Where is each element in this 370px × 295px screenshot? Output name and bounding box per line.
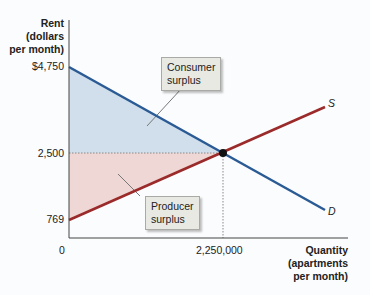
supply-label: S <box>328 97 335 110</box>
producer-surplus-callout: Producer surplus <box>145 196 200 230</box>
x-tick-0: 0 <box>59 244 65 257</box>
x-axis-title: Quantity (apartments per month) <box>268 244 348 283</box>
y-tick-2500: 2,500 <box>2 147 64 160</box>
y-axis-title: Rent (dollars per month) <box>2 17 64 56</box>
equilibrium-point <box>219 149 227 157</box>
consumer-surplus-callout: Consumer surplus <box>161 57 221 91</box>
y-tick-769: 769 <box>2 213 64 226</box>
demand-label: D <box>328 205 336 218</box>
y-tick-4750: $4,750 <box>2 60 64 73</box>
x-tick-2250000: 2,250,000 <box>196 244 243 257</box>
